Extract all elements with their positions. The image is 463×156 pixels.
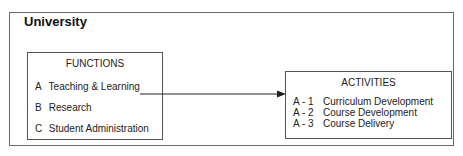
connector-arrow-icon bbox=[0, 0, 463, 156]
